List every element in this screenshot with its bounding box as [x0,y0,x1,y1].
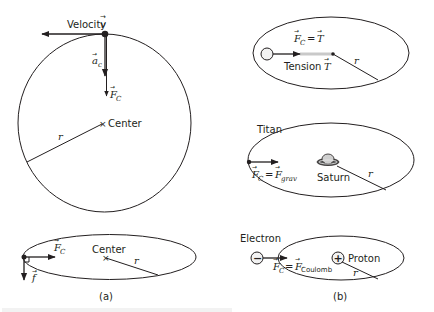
equation-eq: = [307,33,315,44]
ball [261,48,273,60]
radius-label: r [353,267,359,278]
panel-a-circle: Velocity v → a c → F C → × Center r [18,13,191,212]
panel-b-tension: r F C = T → → Tension T → [253,17,409,89]
velocity-vector-mark: → [100,13,106,21]
force-vector-mark: → [54,236,59,243]
center-label: Center [108,118,143,129]
acceleration-sub: c [98,61,102,69]
cropped-caption-line [2,308,232,312]
radius-line [342,262,378,279]
acceleration-vector-mark: → [92,50,97,57]
vector-mark: → [324,55,329,62]
vector-mark: → [317,27,322,34]
vector-mark: → [294,27,299,34]
tangent-vector-mark: → [32,267,37,274]
radius-line [106,258,158,275]
saturn-label: Saturn [317,172,350,183]
panel-b-caption: (b) [333,291,347,302]
electron-label: Electron [240,233,281,244]
saturn-icon [317,154,339,166]
panel-a-caption: (a) [99,291,113,302]
center-x-mark: × [102,253,110,263]
proton-label: Proton [348,253,380,264]
vector-mark: → [273,255,278,262]
panel-b-titan: Titan Saturn r F C = F grav → → [247,123,414,197]
vector-mark: → [252,163,257,170]
radius-label: r [134,255,140,266]
electron-sign: − [253,252,262,265]
equation-lhs-sub: C [300,39,306,47]
titan-label: Titan [256,124,282,135]
radius-label: r [354,55,360,66]
tension-symbol: T [324,61,332,72]
equation-rhs-sub: Coulomb [301,266,333,274]
equation-eq: = [285,261,293,272]
force-sub: C [60,248,66,256]
vector-mark: → [275,163,280,170]
force-sub: C [116,95,122,103]
equation-rhs: T [317,33,325,44]
radius-label: r [368,168,374,179]
vector-mark: → [295,255,300,262]
panel-a-ellipse: F C → f → Center × r [22,235,197,284]
object-dot [102,31,109,38]
force-vector-mark: → [110,83,115,90]
panel-b-electron: − Electron + Proton r F C = F Coulomb → … [240,233,404,280]
circular-motion-diagram: Velocity v → a c → F C → × Center r F C … [0,0,434,312]
center-x-mark: × [99,119,107,129]
radius-line [27,124,102,162]
tension-label: Tension [283,61,321,72]
equation-eq: = [265,169,273,180]
radius-label: r [58,131,64,142]
equation-lhs-sub: C [258,175,264,183]
proton-sign: + [334,252,343,265]
equation-rhs-sub: grav [281,175,297,183]
